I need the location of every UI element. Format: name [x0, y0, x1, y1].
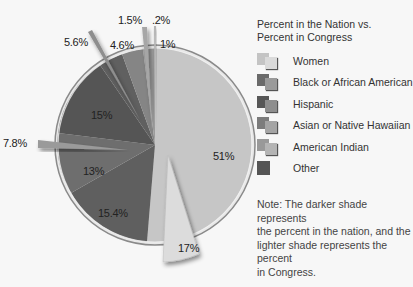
label-amind-congress: .2% — [152, 14, 171, 26]
legend-label: Asian or Native Hawaiian — [293, 119, 410, 131]
legend-label: American Indian — [293, 141, 369, 153]
swatch-american-indian-icon — [257, 139, 279, 155]
chart-note: Note: The darker shade represents the pe… — [257, 198, 413, 279]
legend-item-black: Black or African American — [257, 72, 413, 94]
legend-item-asian: Asian or Native Hawaiian — [257, 115, 413, 137]
label-women-congress: 17% — [178, 242, 200, 254]
legend-label: Black or African American — [293, 76, 413, 88]
legend-item-women: Women — [257, 50, 413, 72]
legend-item-hispanic: Hispanic — [257, 93, 413, 115]
label-black-nation: 13% — [83, 165, 105, 177]
note-line: in Congress. — [257, 266, 413, 280]
swatch-other-icon — [257, 160, 279, 176]
label-women-nation: 51% — [213, 150, 235, 162]
label-amind-nation: 1% — [160, 38, 176, 50]
slice-women-nation — [147, 48, 252, 242]
label-asian-congress: 1.5% — [118, 14, 142, 26]
swatch-asian-icon — [257, 117, 279, 133]
note-line: Note: The darker shade represents — [257, 198, 413, 225]
swatch-hispanic-icon — [257, 96, 279, 112]
legend-item-other: Other — [257, 158, 413, 180]
legend-title-line2: Percent in Congress — [257, 31, 413, 44]
legend-label: Other — [293, 162, 319, 174]
swatch-women-icon — [257, 53, 279, 69]
label-asian-nation: 4.6% — [110, 39, 134, 51]
legend-title-line1: Percent in the Nation vs. — [257, 18, 413, 31]
label-other-nation: 15% — [91, 109, 113, 121]
swatch-black-icon — [257, 74, 279, 90]
legend-title: Percent in the Nation vs. Percent in Con… — [257, 18, 413, 44]
legend-label: Hispanic — [293, 98, 333, 110]
note-line: the percent in the nation, and the — [257, 225, 413, 239]
legend-item-american-indian: American Indian — [257, 136, 413, 158]
label-hispanic-nation: 15.4% — [98, 207, 128, 219]
label-black-congress: 7.8% — [3, 137, 27, 149]
chart-legend: Percent in the Nation vs. Percent in Con… — [257, 18, 413, 179]
legend-label: Women — [293, 55, 329, 67]
note-line: lighter shade represents the percent — [257, 239, 413, 266]
label-hispanic-congress: 5.6% — [64, 36, 88, 48]
